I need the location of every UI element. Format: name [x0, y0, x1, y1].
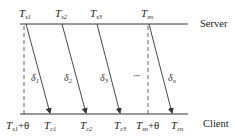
server-timestamp-2: Ts2 [55, 8, 67, 21]
server-timestamp-1: Ts1 [19, 8, 31, 21]
client-timestamp-sn-theta: Tsn+θ [136, 120, 159, 133]
client-lane-label: Client [203, 119, 229, 130]
client-timestamp-cn: Tcn [171, 120, 183, 133]
client-timestamp-s1-theta: Ts1+θ [6, 120, 29, 133]
server-lane-label: Server [200, 19, 227, 30]
delay-label-3: δ3 [100, 73, 108, 85]
delay-label-2: δ2 [64, 73, 72, 85]
server-timestamp-n: Tsn [141, 8, 153, 21]
ellipsis: ··· [133, 71, 140, 81]
clock-sync-diagram: Ts1 Ts2 Ts3 Tsn Server Client δ1 δ2 δ3 δ… [0, 0, 235, 139]
client-timestamp-c2: Tc2 [80, 120, 92, 133]
client-timestamp-c3: Tc3 [114, 120, 126, 133]
server-timestamp-3: Ts3 [90, 8, 102, 21]
message-arrow-n [149, 24, 172, 113]
message-arrow-2 [62, 24, 86, 113]
message-arrow-3 [97, 24, 120, 113]
client-timestamp-c1: Tc1 [44, 120, 56, 133]
delay-label-n: δn [168, 73, 176, 85]
delay-label-1: δ1 [31, 73, 39, 85]
message-arrow-1 [26, 24, 50, 113]
